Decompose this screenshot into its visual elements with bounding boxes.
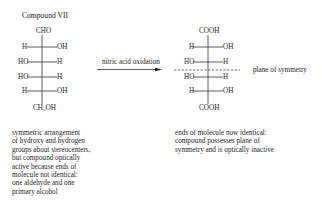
symmetry-label: plane of symmetry — [253, 66, 307, 74]
left-row-4-left: H — [22, 87, 27, 95]
right-top-group: COOH — [199, 27, 219, 35]
right-fischer-lines — [193, 35, 223, 104]
right-row-1-left: H — [189, 43, 194, 51]
right-row-3-left: HO — [184, 73, 194, 81]
right-caption: ends of molecule now identical: compound… — [175, 129, 274, 154]
left-row-1-left: H — [22, 43, 27, 51]
left-row-4-right: OH — [57, 87, 67, 95]
right-row-3-right: H — [223, 73, 228, 81]
left-fischer-lines — [27, 35, 57, 104]
left-row-2-left: HO — [18, 58, 28, 66]
left-top-group: CHO — [36, 27, 51, 35]
left-caption: symmetric arrangement of hydroxy and hyd… — [12, 129, 90, 196]
left-row-3-left: HO — [18, 73, 28, 81]
left-row-1-right: OH — [57, 43, 67, 51]
right-row-2-left: HO — [184, 58, 194, 66]
right-row-1-right: OH — [223, 43, 233, 51]
reaction-arrow — [97, 68, 162, 71]
left-row-2-right: H — [57, 58, 62, 66]
right-bottom-group: COOH — [199, 104, 219, 112]
right-row-2-right: H — [223, 58, 228, 66]
compound-title: Compound VII — [22, 12, 68, 20]
reaction-label: nitric acid oxidation — [102, 58, 160, 66]
right-row-4-right: OH — [223, 87, 233, 95]
left-bottom-group: CH₂OH — [33, 104, 56, 112]
right-row-4-left: H — [189, 87, 194, 95]
left-row-3-right: H — [57, 73, 62, 81]
